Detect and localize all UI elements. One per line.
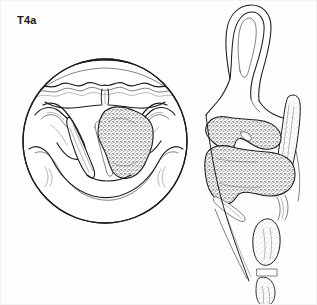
tracheal-ring (256, 269, 277, 305)
laryngoscopic-view (23, 59, 187, 228)
posterior-neck-contour (296, 151, 300, 201)
tumor-mass-upper (205, 116, 281, 149)
cricoid-cartilage (253, 219, 280, 265)
figure-container: T4a (0, 0, 317, 305)
cricothyroid-connection (277, 195, 288, 220)
sagittal-section-view (205, 5, 300, 305)
epiglottis-cartilage (226, 5, 271, 101)
illustration-svg (1, 1, 317, 305)
